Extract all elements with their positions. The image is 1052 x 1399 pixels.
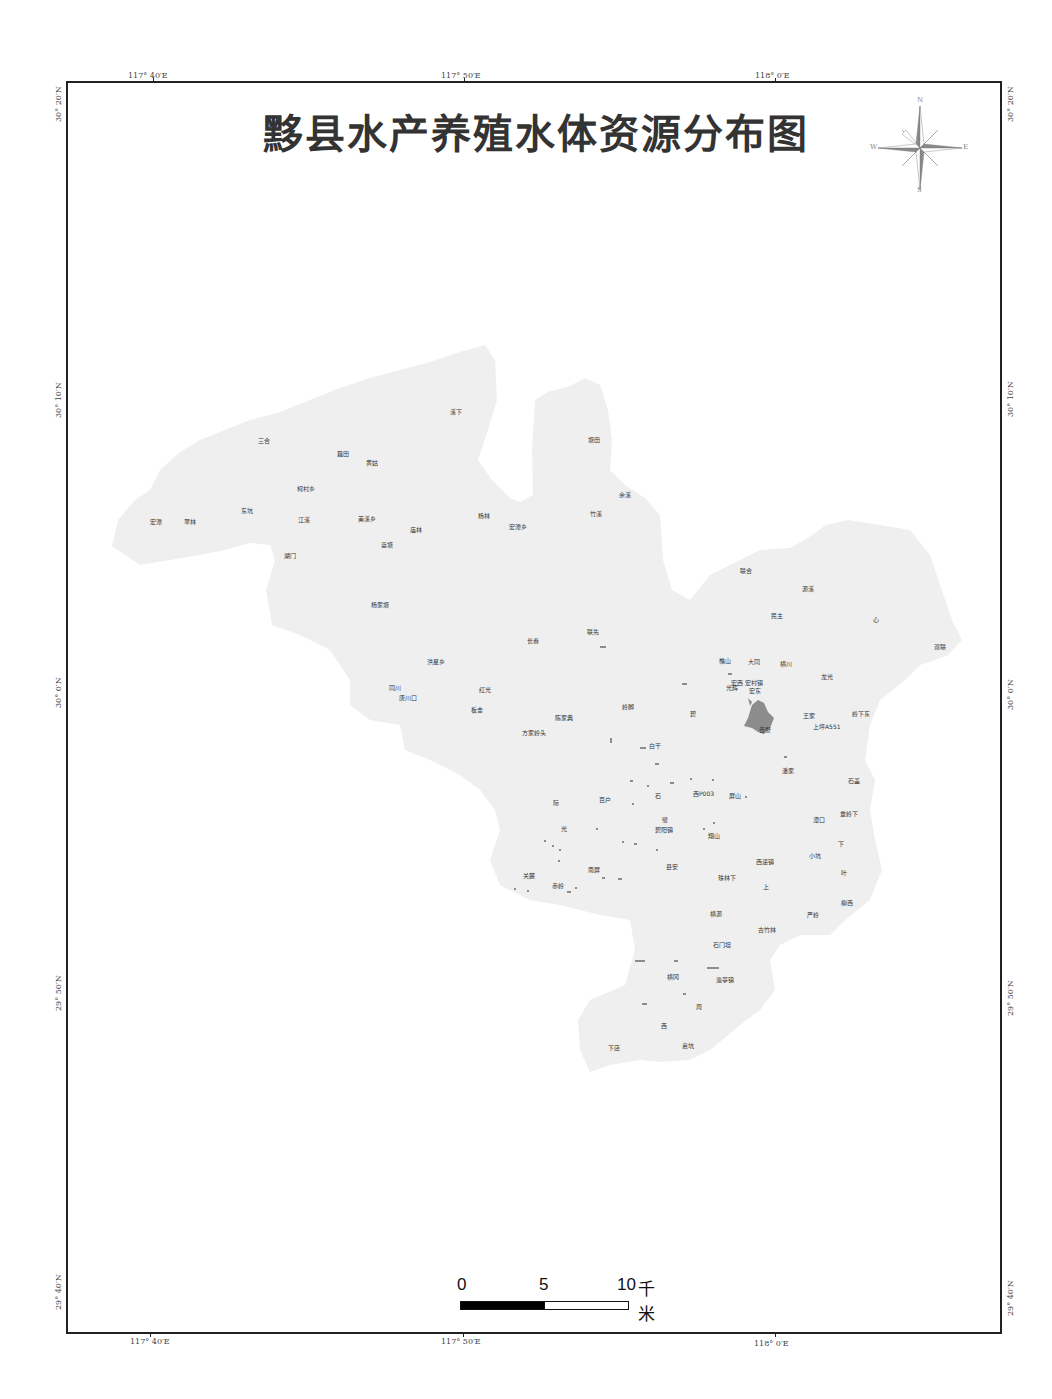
place-label: 叶	[841, 868, 847, 877]
place-label: 洪星乡	[427, 657, 445, 666]
place-label: 宏东	[749, 686, 761, 695]
place-label: 古竹林	[758, 925, 776, 934]
place-label: 长春	[527, 636, 539, 645]
place-label: 关麓	[523, 871, 535, 880]
place-label: 杨家塘	[371, 600, 389, 609]
place-label: 西递镇	[756, 857, 774, 866]
place-label: 宏潭乡	[509, 522, 527, 531]
scale-label-10: 10	[617, 1275, 636, 1295]
place-label: 同川	[389, 683, 401, 692]
place-label: 黄姑	[366, 458, 378, 467]
place-label: 柯村乡	[297, 484, 315, 493]
place-label: 大同	[748, 657, 760, 666]
place-label: 南屏	[588, 865, 600, 874]
place-label: 璧	[662, 815, 668, 824]
place-label: 庙林	[410, 525, 422, 534]
place-label: 江溪	[298, 515, 310, 524]
place-label: 严岭	[807, 910, 819, 919]
place-label: 小坑	[809, 851, 821, 860]
place-label: 樵山	[719, 656, 731, 665]
place-label: 漳口	[813, 815, 825, 824]
place-label: 章岭下	[840, 809, 858, 818]
place-label: 陈家典	[555, 713, 573, 722]
place-label: 余溪	[619, 490, 631, 499]
place-label: 横源	[710, 909, 722, 918]
place-label: 岭下东	[852, 709, 870, 718]
place-label: 东坑	[241, 506, 253, 515]
place-label: 光辉	[726, 683, 738, 692]
place-label: 百户	[599, 795, 611, 804]
place-label: 渔亭镇	[716, 975, 734, 984]
place-label: 湖门	[284, 551, 296, 560]
place-label: 方家岭头	[522, 728, 546, 737]
scale-unit: 千米	[638, 1275, 655, 1325]
place-label: 美溪乡	[358, 514, 376, 523]
place-label: 红光	[479, 685, 491, 694]
place-label: 际	[553, 798, 559, 807]
place-label: 三合	[258, 436, 270, 445]
place-label: 蓝塘	[381, 540, 393, 549]
place-label: 源溪	[802, 584, 814, 593]
place-label: 宏潭	[150, 517, 162, 526]
place-label: 唐川口	[399, 693, 417, 702]
place-label: 横川	[780, 659, 792, 668]
place-label: 横冈	[667, 972, 679, 981]
place-label: 联合	[740, 566, 752, 575]
place-label: 联先	[587, 627, 599, 636]
place-label: 翔山	[708, 831, 720, 840]
place-label: 周	[696, 1002, 702, 1011]
place-label: 柳西	[841, 898, 853, 907]
place-label: 西P003	[693, 789, 714, 798]
place-label: 民主	[771, 611, 783, 620]
place-label: 岭脚	[622, 702, 634, 711]
place-label: 赤岭	[552, 881, 564, 890]
place-label: 龙光	[821, 672, 833, 681]
place-label: 上	[763, 882, 769, 891]
place-label: 下店	[608, 1043, 620, 1052]
place-label: 塘田	[588, 435, 600, 444]
place-label: 板舍	[471, 705, 483, 714]
place-label: 珠林下	[718, 873, 736, 882]
scale-label-0: 0	[457, 1275, 466, 1295]
scale-segment-black	[460, 1301, 545, 1310]
place-label: 奇墅	[759, 725, 771, 734]
place-label: 西	[661, 1021, 667, 1030]
place-label: 王家	[803, 711, 815, 720]
place-label: 潘家	[782, 766, 794, 775]
place-label: 碧	[690, 709, 696, 718]
place-label: 屏山	[729, 791, 741, 800]
place-label: 竹溪	[590, 509, 602, 518]
place-label: 下	[838, 839, 844, 848]
scale-segment-white	[544, 1301, 629, 1310]
county-boundary	[0, 0, 1052, 1399]
place-label: 光	[561, 824, 567, 833]
place-label: 双联	[934, 642, 946, 651]
place-label: 上坪A551	[813, 722, 841, 731]
place-label: 翠林	[184, 517, 196, 526]
place-label: 石盖	[848, 776, 860, 785]
place-label: 杨林	[478, 511, 490, 520]
place-label: 石	[655, 791, 661, 800]
place-label: 心	[873, 615, 879, 624]
place-label: 石门坦	[713, 940, 731, 949]
place-label: 白干	[649, 741, 661, 750]
place-label: 县安	[666, 862, 678, 871]
place-label: 藕田	[337, 449, 349, 458]
scale-label-5: 5	[539, 1275, 548, 1295]
place-label: 溪下	[450, 407, 462, 416]
place-label: 嘉坑	[682, 1041, 694, 1050]
place-label: 碧阳镇	[655, 825, 673, 834]
